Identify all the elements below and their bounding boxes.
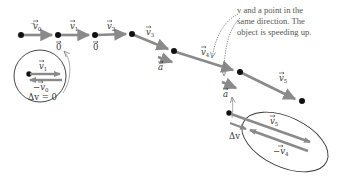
inset-right-delta-v-label: Δv xyxy=(229,131,240,141)
motion-diagram: ⃗ v0 v1 v2 v3 v4 v5 0 0 a a xyxy=(0,0,350,177)
accel-arrow-2 xyxy=(222,82,236,88)
annotation-note: v and a point in the same direction. The… xyxy=(237,5,311,37)
inset-left: v1 −v0 Δv = 0 xyxy=(14,50,70,102)
position-dot xyxy=(237,69,243,75)
note-line-1: v and a point in the xyxy=(237,5,303,15)
v5-arrow xyxy=(242,73,295,99)
label-zero-2: 0 xyxy=(93,42,98,52)
position-dot xyxy=(129,31,135,37)
note-line-2: same direction. The xyxy=(237,16,305,26)
position-dot xyxy=(92,32,98,38)
inset-right: v5 −v4 Δv xyxy=(226,97,337,177)
position-dot xyxy=(171,48,177,54)
position-dot xyxy=(18,32,24,38)
position-dot xyxy=(55,32,61,38)
inset-left-result: Δv = 0 xyxy=(28,92,57,102)
note-line-3: object is speeding up. xyxy=(237,27,311,37)
inset-right-v5-label: v5 xyxy=(270,116,279,127)
inset-left-v1-label: v1 xyxy=(39,61,47,72)
label-v2: v2 xyxy=(107,21,115,32)
label-v4: v4 xyxy=(201,47,210,58)
inset-right-minus-v4-label: −v4 xyxy=(273,146,289,157)
zero-accel-labels: 0 0 xyxy=(56,41,98,52)
label-v5: v5 xyxy=(279,73,288,84)
inset-right-ellipse xyxy=(233,100,338,177)
label-zero-1: 0 xyxy=(56,42,61,52)
label-v3: v3 xyxy=(146,27,155,38)
label-v0: v0 xyxy=(33,21,42,32)
v2-arrow xyxy=(97,34,126,35)
label-v1: v1 xyxy=(70,21,78,32)
inset-delta-v-arrow xyxy=(230,123,246,129)
position-dot xyxy=(299,98,305,104)
label-a-2: a xyxy=(223,89,228,99)
label-a-1: a xyxy=(158,62,163,72)
